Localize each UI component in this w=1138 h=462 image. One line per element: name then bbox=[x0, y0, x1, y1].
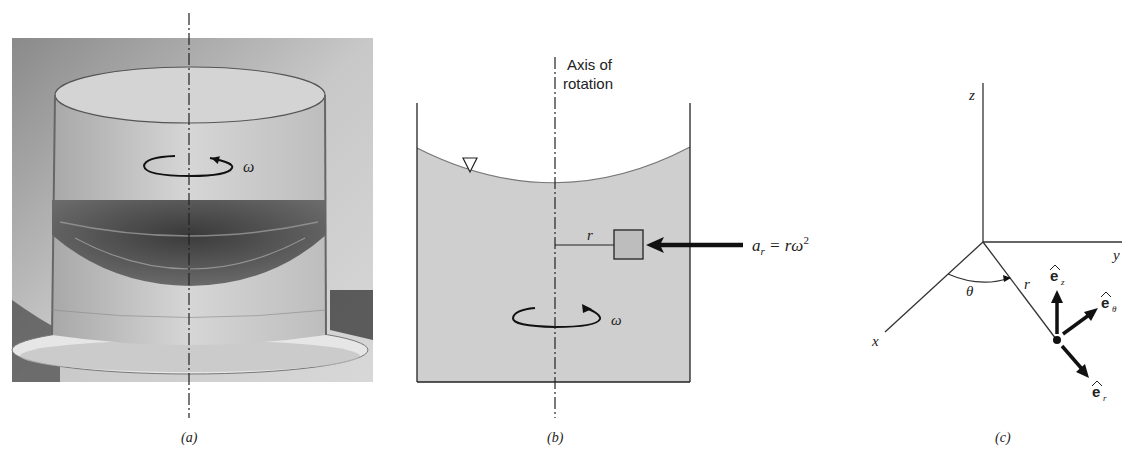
svg-text:r: r bbox=[1103, 393, 1107, 403]
theta-arrow-icon bbox=[1003, 275, 1011, 282]
ez-arrowhead-icon bbox=[1051, 290, 1063, 303]
ez-label: e z bbox=[1050, 265, 1065, 287]
fluid-particle-block bbox=[614, 230, 643, 259]
panel-c-coordinates: z y x θ r e z e θ e r bbox=[871, 83, 1122, 403]
x-axis-label: x bbox=[871, 333, 879, 349]
radius-line-c bbox=[983, 242, 1056, 339]
er-label: e r bbox=[1092, 381, 1107, 403]
etheta-vector bbox=[1063, 315, 1089, 334]
svg-text:z: z bbox=[1060, 277, 1065, 287]
omega-label-a: ω bbox=[243, 158, 254, 175]
caption-c: (c) bbox=[995, 430, 1011, 446]
theta-label: θ bbox=[966, 283, 974, 299]
axis-label-line1: Axis of bbox=[567, 56, 613, 73]
acceleration-label: ar = rω2 bbox=[752, 234, 809, 257]
point-marker bbox=[1053, 336, 1061, 344]
radius-label-b: r bbox=[587, 227, 593, 243]
svg-text:e: e bbox=[1092, 383, 1100, 400]
omega-label-b: ω bbox=[611, 312, 622, 328]
y-axis-label: y bbox=[1111, 247, 1120, 263]
svg-text:e: e bbox=[1101, 294, 1109, 311]
etheta-label: e θ bbox=[1101, 292, 1117, 314]
glass-rim bbox=[55, 67, 325, 123]
svg-text:e: e bbox=[1050, 267, 1058, 284]
er-vector bbox=[1062, 346, 1082, 369]
panel-b-schematic: r ar = rω2 ω Axis of rotation bbox=[417, 56, 809, 382]
caption-b: (b) bbox=[547, 430, 564, 446]
figure-canvas: ω (a) r ar = rω2 ω Axis of rotation (b) bbox=[0, 0, 1138, 462]
r-label-c: r bbox=[1024, 276, 1030, 292]
svg-text:θ: θ bbox=[1112, 304, 1117, 314]
axis-label-line2: rotation bbox=[563, 75, 613, 92]
theta-arc bbox=[948, 274, 1010, 282]
caption-a: (a) bbox=[181, 430, 198, 446]
z-axis-label: z bbox=[968, 87, 975, 103]
panel-a-photo: ω bbox=[12, 38, 373, 382]
